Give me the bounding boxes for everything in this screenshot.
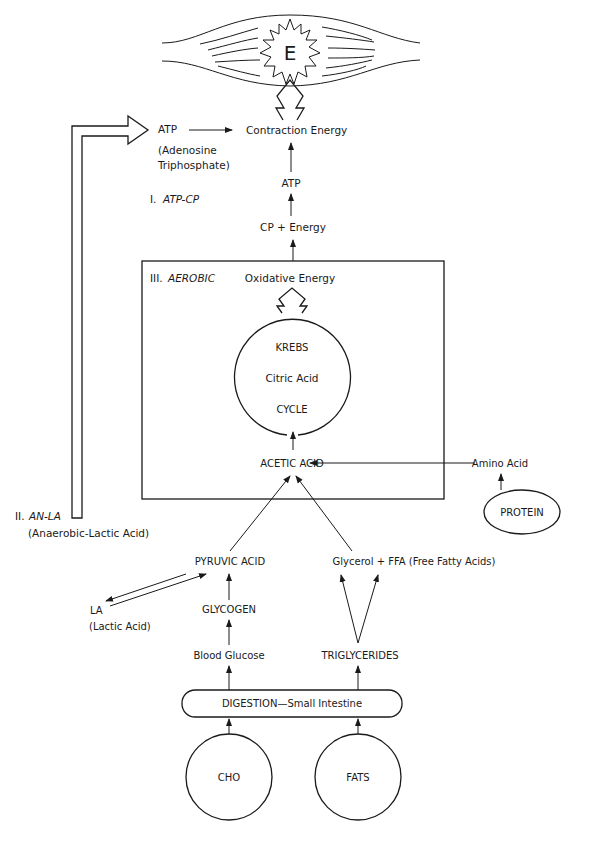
glycerol-ffa-label: Glycerol + FFA (Free Fatty Acids) (333, 556, 496, 567)
trig-to-glycerol-arrow-left (341, 575, 358, 643)
an-la-number: II. (15, 510, 25, 522)
digestion-label: DIGESTION—Small Intestine (222, 698, 362, 709)
energy-symbol: E (284, 41, 297, 65)
pyruvic-to-la-arrow (106, 574, 186, 601)
protein-label: PROTEIN (500, 507, 544, 518)
energy-starburst-icon: E (260, 19, 320, 84)
blood-glucose-label: Blood Glucose (193, 650, 264, 661)
atp-label: ATP (158, 123, 177, 135)
atp-cp-number: I. (150, 193, 156, 205)
pyruvic-acid-label: PYRUVIC ACID (195, 556, 266, 567)
pyruvic-to-acetic-arrow (230, 476, 290, 551)
amino-acid-label: Amino Acid (472, 458, 528, 469)
trig-to-glycerol-arrow-right (358, 575, 378, 643)
anaerobic-hollow-arrow (72, 116, 148, 518)
atp-cp-label: ATP-CP (162, 193, 200, 205)
cp-energy-label: CP + Energy (260, 221, 326, 233)
glycogen-label: GLYCOGEN (202, 604, 256, 615)
cho-label: CHO (218, 772, 241, 783)
oxidative-hollow-arrow (277, 288, 307, 313)
cycle-label: CYCLE (276, 404, 307, 415)
fats-label: FATS (346, 772, 369, 783)
oxidative-energy-label: Oxidative Energy (245, 272, 335, 284)
an-la-label: AN-LA (28, 510, 61, 522)
triglycerides-label: TRIGLYCERIDES (320, 650, 398, 661)
aerobic-label: AEROBIC (167, 272, 216, 284)
energy-systems-diagram: E ATP (Adenosine Triphosphate) Contracti… (0, 0, 593, 844)
la-label: LA (90, 605, 103, 616)
aerobic-number: III. (150, 272, 163, 284)
atp-center-label: ATP (281, 177, 300, 189)
citric-acid-label: Citric Acid (265, 372, 318, 384)
krebs-label: KREBS (276, 342, 309, 353)
la-to-pyruvic-arrow (110, 574, 206, 606)
contraction-energy-label: Contraction Energy (246, 124, 347, 136)
glycerol-to-acetic-arrow (296, 476, 352, 551)
atp-full-line2: Triphosphate) (157, 159, 230, 171)
atp-full-line1: (Adenosine (158, 144, 217, 156)
an-la-full-label: (Anaerobic-Lactic Acid) (28, 527, 149, 539)
la-full-label: (Lactic Acid) (89, 621, 151, 632)
